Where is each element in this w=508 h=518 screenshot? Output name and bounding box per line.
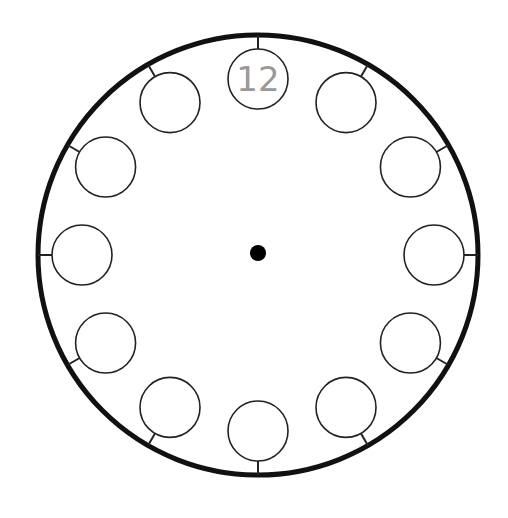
hour-tick bbox=[436, 145, 448, 152]
hour-circle-9 bbox=[52, 225, 112, 285]
hour-circle-10 bbox=[76, 137, 136, 197]
hour-circle-6 bbox=[228, 401, 288, 461]
hour-tick bbox=[361, 64, 368, 76]
hour-circle-8 bbox=[76, 313, 136, 373]
center-dot bbox=[250, 245, 266, 261]
hour-circle-1 bbox=[316, 73, 376, 133]
hour-circle-5 bbox=[316, 377, 376, 437]
hour-tick bbox=[148, 64, 155, 76]
hour-tick bbox=[436, 358, 448, 365]
clock-face: 12 bbox=[0, 0, 508, 518]
hour-tick bbox=[67, 145, 79, 152]
hour-tick bbox=[67, 358, 79, 365]
hour-numeral: 12 bbox=[236, 59, 279, 99]
hour-tick bbox=[148, 433, 155, 445]
hour-circle-2 bbox=[380, 137, 440, 197]
hour-circle-4 bbox=[380, 313, 440, 373]
hour-tick bbox=[361, 433, 368, 445]
hour-circle-7 bbox=[140, 377, 200, 437]
hour-circle-11 bbox=[140, 73, 200, 133]
hour-circle-3 bbox=[404, 225, 464, 285]
